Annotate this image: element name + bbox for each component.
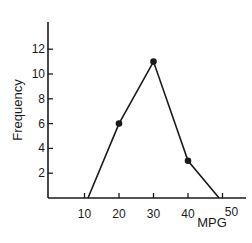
data-point-marker xyxy=(116,120,123,127)
data-point-marker xyxy=(150,58,157,65)
y-tick-label: 12 xyxy=(32,42,46,56)
x-tick-label: 20 xyxy=(112,207,126,221)
x-tick-label: 30 xyxy=(147,207,161,221)
y-tick-label: 8 xyxy=(38,92,45,106)
y-tick-label: 4 xyxy=(38,141,45,155)
y-ticks: 24681012 xyxy=(32,42,53,180)
frequency-polygon-chart: 24681012 1020304050 Frequency MPG xyxy=(0,0,252,243)
x-tick-label: 10 xyxy=(78,207,92,221)
y-tick-label: 2 xyxy=(38,166,45,180)
data-point-marker xyxy=(185,158,192,165)
y-tick-label: 10 xyxy=(32,67,46,81)
y-tick-label: 6 xyxy=(38,117,45,131)
x-tick-label: 40 xyxy=(181,207,195,221)
data-line xyxy=(88,62,219,198)
x-axis-label: MPG xyxy=(197,215,227,230)
y-axis-label: Frequency xyxy=(10,79,25,141)
x-tick-label: 50 xyxy=(225,205,239,219)
axes xyxy=(48,22,246,198)
data-markers xyxy=(116,58,192,164)
